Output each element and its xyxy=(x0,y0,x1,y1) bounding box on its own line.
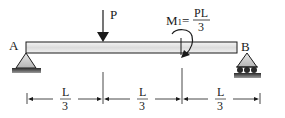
support-a-label: A xyxy=(9,38,19,53)
point-load-arrow-icon xyxy=(97,10,109,42)
svg-text:3: 3 xyxy=(198,20,204,34)
svg-text:L: L xyxy=(139,85,146,99)
dimension-segment-1: L 3 xyxy=(28,85,102,113)
svg-text:M1=: M1= xyxy=(166,13,189,28)
moment-label: M1= PL 3 xyxy=(166,6,210,34)
svg-text:L: L xyxy=(62,85,69,99)
dimension-segment-3: L 3 xyxy=(183,85,259,113)
beam xyxy=(26,42,237,53)
svg-text:3: 3 xyxy=(217,99,223,113)
support-b-label: B xyxy=(241,39,250,54)
roller-support-b xyxy=(234,53,261,78)
svg-text:L: L xyxy=(217,85,224,99)
pin-support-a xyxy=(12,53,41,73)
svg-text:3: 3 xyxy=(62,99,68,113)
svg-text:PL: PL xyxy=(194,6,208,20)
dimension-segment-2: L 3 xyxy=(104,85,181,113)
point-load-label: P xyxy=(110,7,117,22)
beam-diagram: A B P M1= PL 3 xyxy=(0,0,285,118)
svg-text:3: 3 xyxy=(139,99,145,113)
